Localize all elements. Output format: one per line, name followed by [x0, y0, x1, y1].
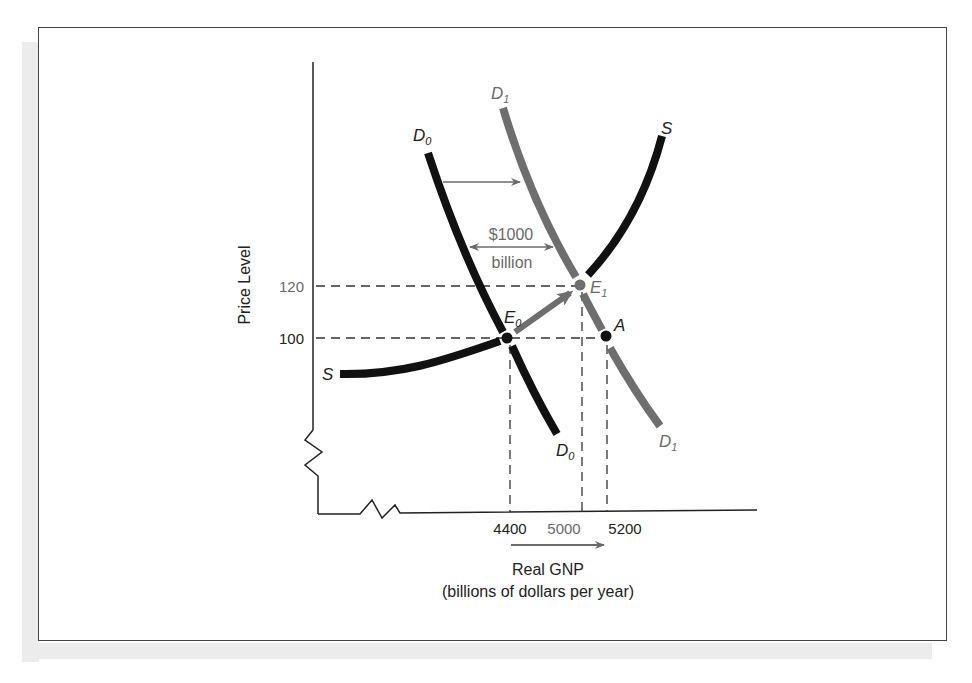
supply-curve-lower — [340, 341, 500, 374]
demand-d0-lower — [512, 346, 557, 434]
demand-d1-upper — [503, 108, 576, 277]
demand-d1-lower — [610, 348, 660, 426]
label-d1-bottom: D1 — [659, 432, 677, 453]
equilibrium-move-arrow — [515, 293, 570, 332]
supply-curve-upper — [588, 136, 662, 275]
point-e1 — [575, 280, 586, 291]
y-axis — [305, 62, 322, 514]
shift-amount-line1: $1000 — [489, 226, 534, 243]
x-tick-5200: 5200 — [608, 520, 641, 537]
label-d0-top: D0 — [413, 126, 432, 147]
ad-as-chart: Price Level 120 100 4400 5000 5200 Real … — [0, 0, 972, 683]
point-a — [601, 331, 612, 342]
x-axis-break-icon — [318, 500, 757, 518]
y-axis-break-icon — [305, 430, 322, 514]
label-s-left: S — [322, 365, 334, 384]
label-d1-top: D1 — [491, 84, 509, 105]
x-axis-sublabel: (billions of dollars per year) — [442, 583, 634, 600]
point-e0 — [502, 333, 513, 344]
x-tick-5000: 5000 — [547, 520, 580, 537]
label-s-top: S — [661, 119, 673, 138]
y-tick-100: 100 — [279, 330, 304, 347]
label-d0-bottom: D0 — [556, 441, 575, 462]
label-a: A — [613, 316, 625, 335]
label-e1: E1 — [590, 278, 607, 299]
x-axis-label: Real GNP — [512, 561, 584, 578]
y-tick-120: 120 — [279, 278, 304, 295]
x-tick-4400: 4400 — [493, 520, 526, 537]
shift-amount-line2: billion — [492, 254, 533, 271]
x-axis — [318, 500, 757, 518]
guide-lines — [316, 286, 607, 512]
demand-d1-middle — [583, 294, 602, 330]
y-axis-label: Price Level — [236, 245, 253, 324]
label-e0: E0 — [504, 308, 522, 329]
